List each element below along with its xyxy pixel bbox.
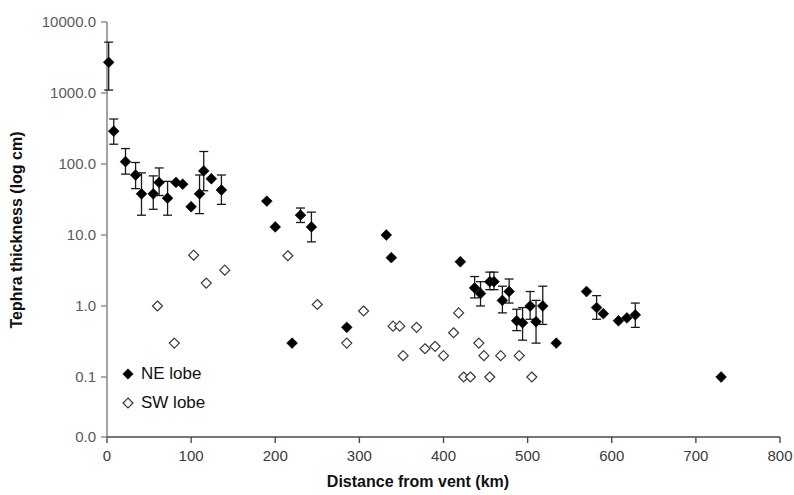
- data-point-ne-lobe: [537, 301, 548, 312]
- data-point-sw-lobe: [342, 338, 352, 348]
- data-point-sw-lobe: [449, 328, 459, 338]
- y-axis-tick-label: 100.0: [58, 155, 96, 172]
- data-point-sw-lobe: [398, 351, 408, 361]
- y-axis-tick-label: 1.0: [75, 297, 96, 314]
- data-point-ne-lobe: [130, 170, 141, 181]
- data-point-sw-lobe: [527, 372, 537, 382]
- data-point-sw-lobe: [283, 251, 293, 261]
- data-points-group: [103, 42, 726, 382]
- series-sw-lobe: [152, 250, 536, 382]
- x-axis-tick-label: 500: [515, 447, 540, 464]
- data-point-ne-lobe: [287, 338, 298, 349]
- data-point-ne-lobe: [551, 338, 562, 349]
- x-axis-title: Distance from vent (km): [327, 473, 509, 490]
- data-point-sw-lobe: [465, 372, 475, 382]
- data-point-sw-lobe: [312, 299, 322, 309]
- data-point-sw-lobe: [496, 351, 506, 361]
- data-point-sw-lobe: [189, 250, 199, 260]
- data-point-sw-lobe: [395, 321, 405, 331]
- legend-marker-ne-lobe: [123, 369, 133, 379]
- data-point-ne-lobe: [295, 210, 306, 221]
- x-axis-tick-label: 200: [263, 447, 288, 464]
- data-point-sw-lobe: [220, 265, 230, 275]
- data-point-sw-lobe: [479, 351, 489, 361]
- x-axis-tick-label: 100: [179, 447, 204, 464]
- chart-svg: 10000.01000.0100.010.01.00.10.0010020030…: [0, 0, 794, 495]
- data-point-sw-lobe: [439, 351, 449, 361]
- data-point-sw-lobe: [485, 372, 495, 382]
- data-point-sw-lobe: [474, 338, 484, 348]
- data-point-ne-lobe: [341, 322, 352, 333]
- data-point-ne-lobe: [216, 185, 227, 196]
- y-axis-tick-label: 10000.0: [42, 13, 96, 30]
- x-axis-tick-label: 0: [103, 447, 111, 464]
- data-point-sw-lobe: [169, 338, 179, 348]
- data-point-ne-lobe: [581, 286, 592, 297]
- chart-legend: NE lobeSW lobe: [123, 364, 205, 412]
- data-point-sw-lobe: [152, 301, 162, 311]
- tephra-thickness-scatter-chart: 10000.01000.0100.010.01.00.10.0010020030…: [0, 0, 794, 495]
- data-point-ne-lobe: [148, 188, 159, 199]
- y-axis-title: Tephra thickness (log cm): [8, 131, 25, 328]
- y-axis-tick-label: 0.1: [75, 368, 96, 385]
- data-point-sw-lobe: [420, 344, 430, 354]
- data-point-ne-lobe: [103, 57, 114, 68]
- data-point-sw-lobe: [201, 278, 211, 288]
- x-axis-tick-label: 300: [347, 447, 372, 464]
- data-point-ne-lobe: [455, 256, 466, 267]
- x-axis-tick-label: 800: [767, 447, 792, 464]
- x-axis-tick-label: 400: [431, 447, 456, 464]
- y-axis-tick-label: 0.0: [75, 428, 96, 445]
- data-point-ne-lobe: [108, 126, 119, 137]
- data-point-ne-lobe: [120, 156, 131, 167]
- data-point-sw-lobe: [430, 341, 440, 351]
- data-point-ne-lobe: [497, 295, 508, 306]
- data-point-ne-lobe: [154, 177, 165, 188]
- data-point-ne-lobe: [525, 301, 536, 312]
- data-point-ne-lobe: [162, 193, 173, 204]
- data-point-ne-lobe: [136, 188, 147, 199]
- data-point-ne-lobe: [206, 173, 217, 184]
- data-point-ne-lobe: [504, 286, 515, 297]
- data-point-ne-lobe: [716, 372, 727, 383]
- y-axis-tick-label: 1000.0: [50, 84, 96, 101]
- data-point-ne-lobe: [261, 196, 272, 207]
- data-point-ne-lobe: [531, 316, 542, 327]
- x-axis-tick-label: 700: [683, 447, 708, 464]
- legend-marker-sw-lobe: [123, 398, 133, 408]
- legend-label-ne-lobe: NE lobe: [141, 364, 201, 383]
- data-point-ne-lobe: [386, 252, 397, 263]
- y-axis-tick-label: 10.0: [67, 226, 96, 243]
- data-point-sw-lobe: [454, 308, 464, 318]
- data-point-ne-lobe: [306, 222, 317, 233]
- legend-label-sw-lobe: SW lobe: [141, 393, 205, 412]
- data-point-ne-lobe: [381, 230, 392, 241]
- data-point-ne-lobe: [186, 201, 197, 212]
- data-point-ne-lobe: [270, 222, 281, 233]
- data-point-sw-lobe: [359, 306, 369, 316]
- x-axis-tick-label: 600: [599, 447, 624, 464]
- data-point-sw-lobe: [514, 351, 524, 361]
- data-point-sw-lobe: [412, 322, 422, 332]
